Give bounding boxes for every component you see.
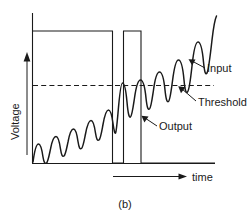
diagram-canvas: Voltage time Input Threshold Output (b) xyxy=(0,0,250,215)
threshold-leader-arrowhead-icon xyxy=(178,86,185,93)
voltage-axis-arrowhead-icon xyxy=(24,52,31,62)
output-leader-line xyxy=(145,118,157,126)
voltage-axis-label: Voltage xyxy=(9,103,21,140)
threshold-leader-line xyxy=(182,89,196,101)
input-label: Input xyxy=(207,62,231,74)
time-axis-arrowhead-icon xyxy=(179,173,188,179)
figure-caption: (b) xyxy=(118,198,131,210)
time-axis-label: time xyxy=(192,171,213,183)
schmitt-trigger-timing-diagram: Voltage time Input Threshold Output (b) xyxy=(0,0,250,215)
input-waveform xyxy=(33,16,217,163)
threshold-label: Threshold xyxy=(198,96,247,108)
output-label: Output xyxy=(159,120,192,132)
